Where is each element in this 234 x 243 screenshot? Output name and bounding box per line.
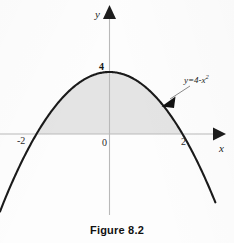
y-axis-arrowhead-icon [103, 5, 116, 19]
curve-equation-base: y=4-x [184, 75, 206, 85]
figure-container: y x 0 -2 2 4 y=4-x2 Figure 8.2 [0, 0, 234, 243]
figure-caption: Figure 8.2 [0, 224, 234, 236]
callout-leader-line [170, 86, 190, 99]
x-tick-label-negative-two: -2 [17, 136, 25, 146]
curve-equation-label: y=4-x2 [184, 76, 209, 85]
y-tick-label-four: 4 [99, 62, 104, 72]
curve-equation-exponent: 2 [206, 73, 209, 80]
callout-arrowhead-icon [162, 97, 176, 109]
y-axis-label: y [95, 9, 100, 20]
origin-tick-label: 0 [102, 138, 107, 148]
parabola-plot [0, 0, 234, 243]
x-tick-label-positive-two: 2 [181, 137, 186, 147]
x-axis-arrowhead-icon [213, 128, 226, 141]
x-axis-label: x [219, 143, 224, 154]
